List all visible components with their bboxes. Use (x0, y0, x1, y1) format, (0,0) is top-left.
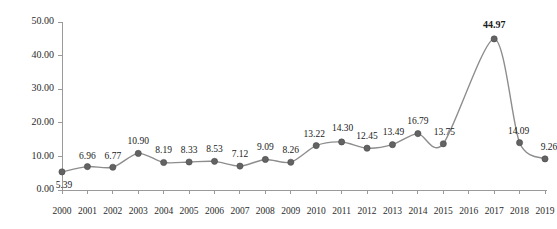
x-tick-label: 2012 (358, 206, 377, 216)
x-tick-label: 2002 (103, 206, 122, 216)
data-point-label: 5.39 (56, 180, 73, 190)
data-point-label: 8.33 (181, 145, 198, 155)
data-point-marker (262, 156, 268, 162)
x-tick-label: 2001 (78, 206, 97, 216)
data-point-marker (237, 163, 243, 169)
data-point-label: 9.26 (541, 142, 557, 152)
x-tick-label: 2017 (485, 206, 504, 216)
data-point-marker (516, 140, 522, 146)
data-point-label: 8.19 (155, 145, 172, 155)
data-point-marker (313, 142, 319, 148)
x-tick-label: 2018 (510, 206, 529, 216)
data-point-label: 12.45 (356, 131, 378, 141)
y-tick-label: 20.00 (32, 116, 55, 127)
data-point-marker (186, 159, 192, 165)
data-point-marker (389, 142, 395, 148)
data-point-label: 13.22 (304, 129, 326, 139)
data-point-label: 13.75 (434, 127, 456, 137)
data-point-marker (84, 164, 90, 170)
y-tick-label: 0.00 (37, 183, 55, 194)
x-tick-label: 2007 (230, 206, 249, 216)
data-point-marker (135, 150, 141, 156)
series-line (62, 39, 545, 172)
data-point-marker (364, 145, 370, 151)
data-point-marker (211, 158, 217, 164)
data-point-label: 14.30 (332, 123, 354, 133)
data-point-label: 9.09 (257, 142, 274, 152)
x-tick-label: 2006 (205, 206, 224, 216)
y-axis: 0.0010.0020.0030.0040.0050.00 (32, 15, 63, 194)
x-axis: 2000200120022003200420052006200720082009… (53, 190, 555, 216)
data-point-label: 10.90 (128, 136, 150, 146)
data-point-label: 44.97 (483, 19, 506, 30)
data-point-marker (288, 159, 294, 165)
data-point-label: 16.79 (407, 116, 429, 126)
x-tick-label: 2013 (383, 206, 402, 216)
x-tick-label: 2015 (434, 206, 453, 216)
y-tick-label: 30.00 (32, 82, 55, 93)
x-tick-label: 2014 (408, 206, 427, 216)
data-point-marker (440, 141, 446, 147)
data-point-label: 8.53 (206, 144, 223, 154)
data-point-marker (161, 159, 167, 165)
data-point-labels: 5.396.966.7710.908.198.338.537.129.098.2… (56, 19, 557, 190)
data-point-marker (542, 156, 548, 162)
data-point-marker (339, 139, 345, 145)
x-tick-label: 2009 (281, 206, 300, 216)
x-tick-label: 2004 (154, 206, 173, 216)
x-tick-label: 2008 (256, 206, 275, 216)
x-tick-label: 2019 (536, 206, 555, 216)
data-point-marker (59, 169, 65, 175)
data-point-label: 7.12 (232, 149, 249, 159)
data-point-marker (110, 164, 116, 170)
line-chart: 0.0010.0020.0030.0040.0050.00 2000200120… (0, 0, 557, 229)
x-tick-label: 2005 (180, 206, 199, 216)
chart-canvas: 0.0010.0020.0030.0040.0050.00 2000200120… (0, 0, 557, 229)
x-tick-label: 2000 (53, 206, 72, 216)
data-point-label: 13.49 (383, 127, 405, 137)
x-tick-label: 2011 (332, 206, 351, 216)
y-tick-label: 50.00 (32, 15, 55, 26)
data-point-marker (415, 130, 421, 136)
x-tick-label: 2003 (129, 206, 148, 216)
y-tick-label: 10.00 (32, 150, 55, 161)
data-point-marker (491, 36, 497, 42)
data-point-label: 6.96 (79, 151, 96, 161)
x-tick-label: 2010 (307, 206, 326, 216)
data-point-label: 8.26 (282, 145, 299, 155)
y-tick-label: 40.00 (32, 49, 55, 60)
data-series (62, 39, 545, 172)
x-tick-label: 2016 (459, 206, 478, 216)
data-point-label: 6.77 (105, 151, 122, 161)
data-point-label: 14.09 (508, 126, 530, 136)
